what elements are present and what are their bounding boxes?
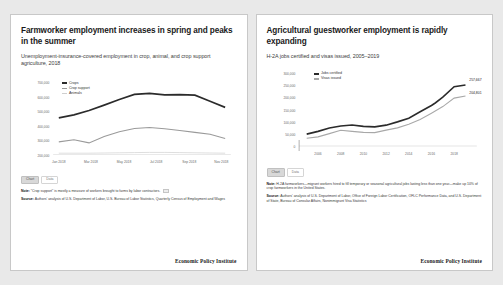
x-tick-label: 2014 (405, 152, 412, 156)
chart-footnotes-left: Note: "Crop support" is mostly a measure… (21, 189, 237, 205)
x-tick-label: Nov 2018 (214, 159, 228, 163)
y-tick-label: 50,000 (285, 133, 295, 137)
data-label-visas-issued: 204,801 (469, 92, 481, 96)
chart-right-svg: 300,000 250,000 200,000 150,000 100,000 … (267, 67, 483, 165)
x-tick-label: Sep 2018 (182, 159, 196, 163)
legend-swatch-icon (62, 82, 67, 84)
legend-swatch-icon (314, 73, 319, 75)
source-text: Authors' analysis of U.S. Department of … (267, 194, 482, 203)
y-tick-label: 500,000 (37, 110, 49, 114)
x-tick-label: Mar 2018 (84, 159, 98, 163)
source-label: Source: (21, 197, 34, 201)
chart-legend-right: Jobs certified Visas issued (314, 71, 342, 81)
tab-chart[interactable]: Chart (21, 176, 39, 184)
series-line-jobs-certified (306, 85, 465, 134)
screenshot-root: Farmworker employment increases in sprin… (0, 0, 503, 285)
source-label: Source: (267, 194, 280, 198)
chart-legend-left: Crops Crop support Animals (62, 81, 90, 97)
page-title: Agricultural guestworker employment is r… (267, 26, 483, 48)
x-tick-label: 2018 (450, 152, 457, 156)
y-tick-label: 700,000 (37, 80, 49, 84)
y-tick-label: 200,000 (37, 153, 49, 157)
source-line: Source: Authors' analysis of U.S. Depart… (267, 194, 483, 204)
y-tick-label: 100,000 (283, 121, 295, 125)
y-tick-label: 600,000 (37, 95, 49, 99)
data-label-jobs-certified: 257,667 (469, 79, 481, 83)
x-tick-label: Jan 2018 (52, 159, 66, 163)
attribution-right: Economic Policy Institute (267, 254, 483, 264)
y-tick-label: 400,000 (37, 124, 49, 128)
page-title: Farmworker employment increases in sprin… (21, 26, 237, 48)
x-tick-label: 2006 (314, 152, 321, 156)
legend-label: Visas issued (321, 76, 341, 81)
chart-footnotes-right: Note: H-2A farmworkers—migrant workers h… (267, 182, 483, 208)
panel-guestworker-employment: Agricultural guestworker employment is r… (256, 14, 494, 271)
chart-subtitle: Unemployment-insurance-covered employmen… (21, 53, 237, 68)
series-line-crop-support (59, 127, 225, 142)
y-tick-label: 0 (293, 145, 295, 149)
chart-left: 700,000 600,000 500,000 400,000 300,000 … (21, 75, 237, 173)
chart-subtitle: H-2A jobs certified and visas issued, 20… (267, 53, 483, 60)
note-text: H-2A farmworkers—migrant workers hired t… (267, 182, 478, 191)
x-tick-label: 2012 (382, 152, 389, 156)
legend-item-animals: Animals (62, 91, 90, 96)
tab-data[interactable]: Data (287, 168, 304, 176)
note-text: "Crop support" is mostly a measure of wo… (31, 189, 160, 193)
series-line-animals (59, 152, 225, 153)
source-text: Authors' analysis of U.S. Department of … (35, 197, 225, 201)
series-line-crops (59, 93, 225, 118)
y-tick-label: 300,000 (283, 72, 295, 76)
note-label: Note: (267, 182, 276, 186)
y-tick-label: 250,000 (283, 84, 295, 88)
panel-farmworker-employment: Farmworker employment increases in sprin… (10, 14, 248, 271)
chart-toolbar-right: Chart Data (267, 168, 483, 176)
series-line-visas-issued (306, 96, 465, 138)
note-line: Note: H-2A farmworkers—migrant workers h… (267, 182, 483, 192)
legend-swatch-icon (314, 78, 319, 79)
chart-right: 300,000 250,000 200,000 150,000 100,000 … (267, 67, 483, 165)
chart-left-svg: 700,000 600,000 500,000 400,000 300,000 … (21, 75, 237, 173)
share-icon[interactable] (163, 189, 169, 193)
note-line: Note: "Crop support" is mostly a measure… (21, 189, 237, 194)
legend-swatch-icon (62, 88, 67, 89)
x-tick-label: 2008 (337, 152, 344, 156)
y-tick-label: 150,000 (283, 109, 295, 113)
legend-item-visas-issued: Visas issued (314, 76, 342, 81)
x-tick-label: 2016 (427, 152, 434, 156)
tab-chart[interactable]: Chart (267, 168, 285, 176)
attribution-left: Economic Policy Institute (21, 254, 237, 264)
y-tick-label: 200,000 (283, 96, 295, 100)
source-line: Source: Authors' analysis of U.S. Depart… (21, 197, 237, 202)
legend-label: Animals (69, 91, 82, 96)
x-tick-label: Jul 2018 (150, 159, 163, 163)
x-tick-label: 2010 (359, 152, 366, 156)
legend-swatch-icon (62, 93, 67, 94)
note-label: Note: (21, 189, 30, 193)
y-tick-label: 300,000 (37, 139, 49, 143)
tab-data[interactable]: Data (41, 176, 58, 184)
x-tick-label: May 2018 (117, 159, 132, 163)
chart-toolbar-left: Chart Data (21, 176, 237, 184)
